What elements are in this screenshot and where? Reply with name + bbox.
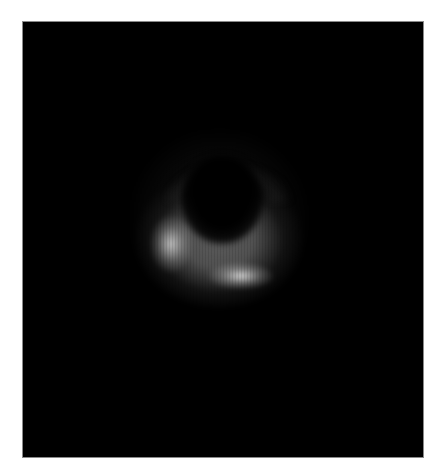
image-canvas [0,0,442,475]
ring-dark-center [181,156,263,244]
black-image-panel [22,21,424,458]
